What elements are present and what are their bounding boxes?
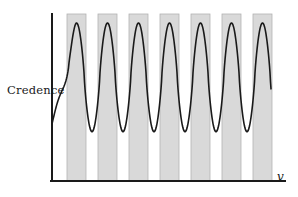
x-axis-label: v [277,171,284,183]
shaded-band [129,14,148,181]
plot-canvas [0,0,298,197]
credence-figure: Credence v [0,0,298,197]
shaded-band [253,14,272,181]
shaded-band [222,14,241,181]
shaded-band [98,14,117,181]
shaded-band [191,14,210,181]
y-axis-label: Credence [7,85,65,97]
shaded-band [160,14,179,181]
shaded-band [67,14,86,181]
